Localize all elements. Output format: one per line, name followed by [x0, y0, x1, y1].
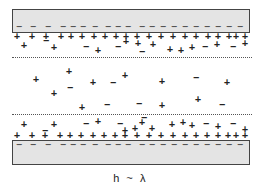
- negative-charge-icon: −: [226, 140, 232, 150]
- negative-ion-icon: −: [110, 78, 116, 88]
- positive-ion-icon: +: [29, 130, 35, 140]
- negative-ion-icon: −: [193, 73, 199, 83]
- positive-ion-icon: +: [14, 130, 20, 140]
- positive-ion-icon: +: [159, 76, 165, 86]
- negative-charge-icon: −: [30, 140, 36, 150]
- positive-ion-icon: +: [150, 39, 156, 49]
- positive-ion-icon: +: [224, 77, 230, 87]
- positive-ion-icon: +: [180, 117, 186, 127]
- positive-ion-icon: +: [51, 119, 57, 129]
- positive-ion-icon: +: [95, 116, 101, 126]
- negative-charge-icon: −: [92, 140, 98, 150]
- positive-ion-icon: +: [67, 130, 73, 140]
- negative-ion-icon: −: [139, 47, 145, 57]
- positive-ion-icon: +: [225, 130, 231, 140]
- negative-ion-icon: −: [230, 119, 236, 129]
- positive-ion-icon: +: [182, 31, 188, 41]
- negative-charge-icon: −: [215, 140, 221, 150]
- positive-ion-icon: +: [134, 130, 140, 140]
- positive-ion-icon: +: [170, 31, 176, 41]
- positive-ion-icon: +: [158, 130, 164, 140]
- positive-ion-icon: +: [204, 130, 210, 140]
- negative-ion-icon: −: [104, 100, 110, 110]
- positive-ion-icon: +: [122, 70, 128, 80]
- positive-ion-icon: +: [215, 130, 221, 140]
- top-double-layer-boundary: [12, 57, 252, 58]
- negative-ion-icon: −: [136, 99, 142, 109]
- positive-ion-icon: +: [21, 119, 27, 129]
- positive-ion-icon: +: [102, 31, 108, 41]
- negative-charge-icon: −: [45, 140, 51, 150]
- negative-ion-icon: −: [115, 42, 121, 52]
- bottom-double-layer-boundary: [12, 114, 252, 115]
- positive-ion-icon: +: [90, 130, 96, 140]
- negative-ion-icon: −: [219, 100, 225, 110]
- positive-ion-icon: +: [33, 74, 39, 84]
- positive-ion-icon: +: [122, 130, 128, 140]
- negative-charge-icon: −: [149, 140, 155, 150]
- positive-ion-icon: +: [195, 94, 201, 104]
- positive-ion-icon: +: [78, 130, 84, 140]
- negative-ion-icon: −: [230, 42, 236, 52]
- positive-ion-icon: +: [193, 31, 199, 41]
- positive-ion-icon: +: [167, 44, 173, 54]
- negative-ion-icon: −: [203, 119, 209, 129]
- positive-ion-icon: +: [14, 31, 20, 41]
- negative-charge-icon: −: [60, 140, 66, 150]
- positive-ion-icon: +: [233, 31, 239, 41]
- positive-ion-icon: +: [29, 31, 35, 41]
- negative-ion-icon: −: [83, 42, 89, 52]
- negative-ion-icon: −: [67, 83, 73, 93]
- positive-ion-icon: +: [146, 130, 152, 140]
- positive-ion-icon: +: [68, 31, 74, 41]
- positive-ion-icon: +: [90, 77, 96, 87]
- negative-ion-icon: −: [141, 113, 147, 123]
- positive-ion-icon: +: [159, 100, 165, 110]
- positive-ion-icon: +: [51, 88, 57, 98]
- positive-ion-icon: +: [182, 130, 188, 140]
- positive-ion-icon: +: [21, 40, 27, 50]
- negative-charge-icon: −: [70, 140, 76, 150]
- positive-ion-icon: +: [95, 45, 101, 55]
- negative-charge-icon: −: [16, 140, 22, 150]
- positive-ion-icon: +: [169, 119, 175, 129]
- positive-ion-icon: +: [57, 130, 63, 140]
- positive-ion-icon: +: [79, 102, 85, 112]
- positive-ion-icon: +: [101, 130, 107, 140]
- positive-ion-icon: +: [242, 38, 248, 48]
- positive-ion-icon: +: [233, 130, 239, 140]
- positive-ion-icon: +: [112, 130, 118, 140]
- positive-ion-icon: +: [226, 31, 232, 41]
- caption: h ~ λ: [0, 173, 259, 185]
- positive-ion-icon: +: [158, 31, 164, 41]
- positive-ion-icon: +: [189, 42, 195, 52]
- positive-ion-icon: +: [66, 66, 72, 76]
- positive-ion-icon: +: [205, 31, 211, 41]
- positive-ion-icon: +: [178, 45, 184, 55]
- positive-ion-icon: +: [79, 31, 85, 41]
- positive-ion-icon: +: [91, 31, 97, 41]
- negative-charge-icon: −: [160, 140, 166, 150]
- negative-ion-icon: −: [202, 42, 208, 52]
- negative-charge-icon: −: [237, 140, 243, 150]
- positive-ion-icon: +: [113, 31, 119, 41]
- negative-charge-icon: −: [193, 140, 199, 150]
- positive-ion-icon: +: [193, 130, 199, 140]
- negative-charge-icon: −: [139, 140, 145, 150]
- positive-ion-icon: +: [58, 31, 64, 41]
- positive-ion-icon: +: [42, 130, 48, 140]
- positive-ion-icon: +: [123, 36, 129, 46]
- negative-ion-icon: −: [43, 36, 49, 46]
- negative-charge-icon: −: [182, 140, 188, 150]
- negative-charge-icon: −: [80, 140, 86, 150]
- positive-ion-icon: +: [170, 130, 176, 140]
- negative-ion-icon: −: [83, 119, 89, 129]
- negative-charge-icon: −: [105, 140, 111, 150]
- negative-charge-icon: −: [204, 140, 210, 150]
- negative-charge-icon: −: [125, 140, 131, 150]
- positive-ion-icon: +: [242, 130, 248, 140]
- negative-charge-icon: −: [115, 140, 121, 150]
- negative-charge-icon: −: [171, 140, 177, 150]
- positive-ion-icon: +: [51, 42, 57, 52]
- positive-ion-icon: +: [214, 39, 220, 49]
